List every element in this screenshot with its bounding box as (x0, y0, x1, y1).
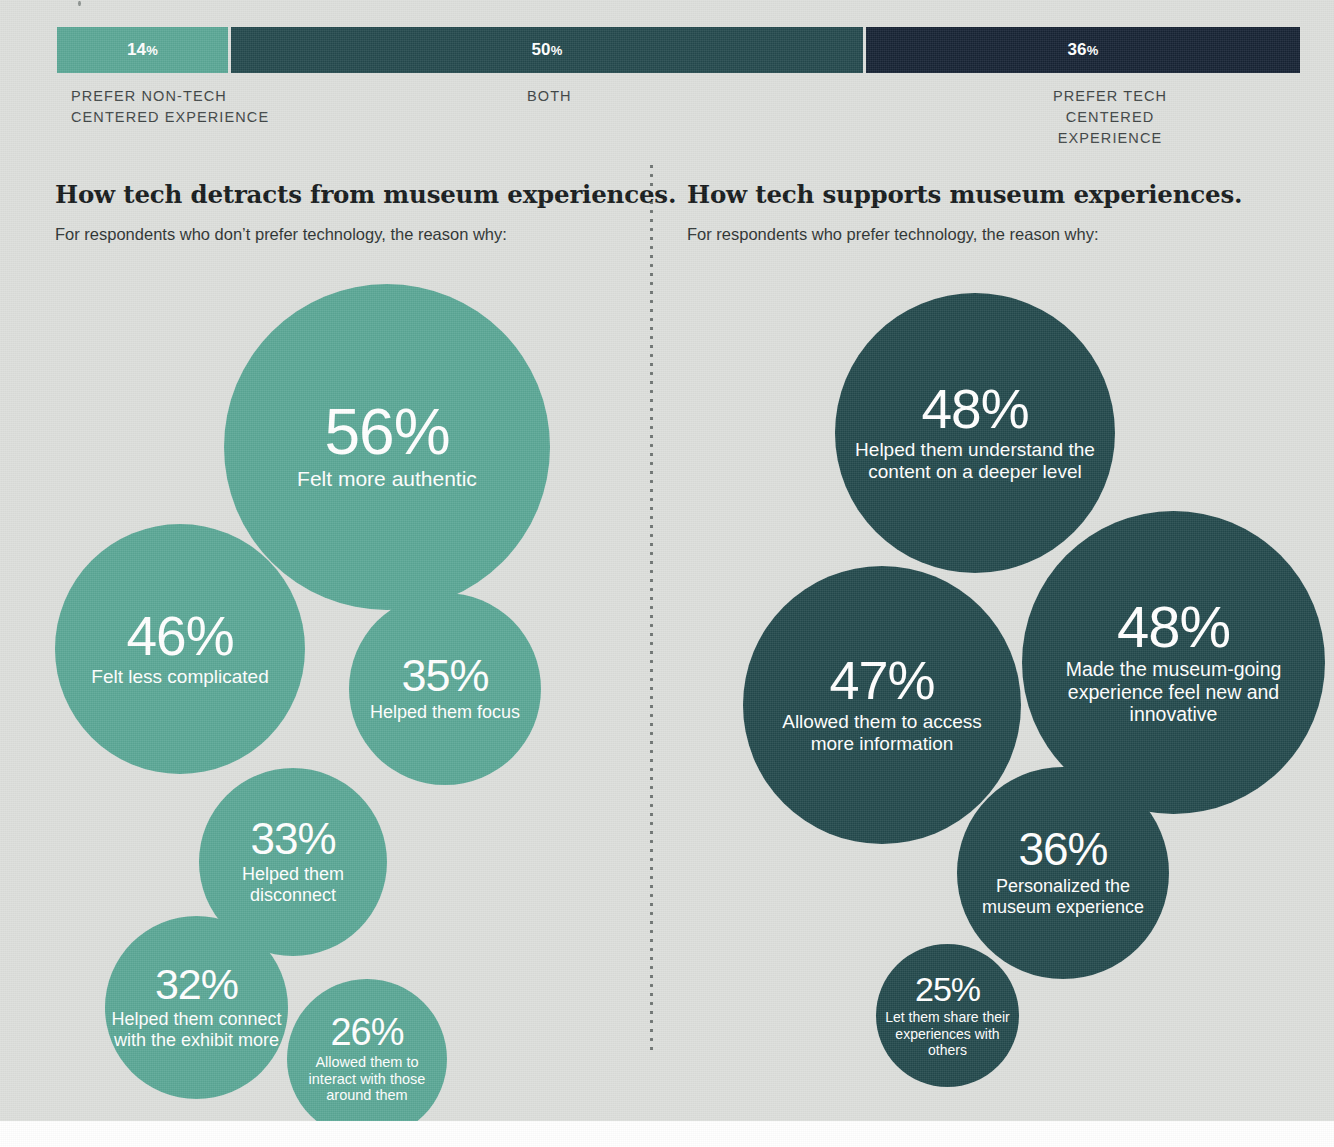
bubble-right-25-label: Let them share their experiences with ot… (873, 1009, 1023, 1058)
right-column-header: How tech supports museum experiences. Fo… (687, 180, 1242, 244)
bubble-right-47: 47% Allowed them to access more informat… (743, 566, 1021, 844)
bubble-left-56-value: 56% (324, 402, 449, 463)
bubble-left-26-value: 26% (330, 1014, 403, 1050)
bubble-right-48b-value: 48% (1117, 599, 1230, 654)
bar-label-non-tech-line2: CENTERED EXPERIENCE (71, 107, 269, 128)
bubble-right-48-deeper-level: 48% Helped them understand the content o… (835, 293, 1115, 573)
bar-label-tech-line2: CENTERED EXPERIENCE (1035, 107, 1185, 149)
bubble-left-33-value: 33% (250, 818, 335, 860)
bubble-left-56-label: Felt more authentic (231, 467, 543, 491)
bubble-left-33-label: Helped them disconnect (201, 864, 385, 906)
bubble-right-36-label: Personalized the museum experience (967, 876, 1159, 918)
bar-label-non-tech-line1: PREFER NON-TECH (71, 86, 269, 107)
bubble-left-46-value: 46% (126, 610, 233, 662)
bar-segment-prefer-non-tech: 14% (57, 27, 231, 73)
bar-label-both-line1: BOTH (527, 86, 572, 107)
bubble-left-46: 46% Felt less complicated (55, 524, 305, 774)
infographic-page: 14% 50% 36% PREFER NON-TECH CENTERED EXP… (0, 0, 1334, 1147)
paper-speck (78, 1, 81, 6)
bubble-right-25-value: 25% (915, 973, 980, 1005)
bubble-left-46-label: Felt less complicated (50, 666, 310, 688)
right-column-title: How tech supports museum experiences. (687, 180, 1242, 209)
bubble-right-48b-label: Made the museum-going experience feel ne… (1035, 658, 1313, 726)
bubble-right-47-label: Allowed them to access more information (756, 711, 1008, 755)
bar-label-prefer-tech: PREFER TECH CENTERED EXPERIENCE (1035, 86, 1185, 149)
page-bottom-margin (0, 1121, 1334, 1147)
bubble-right-25: 25% Let them share their experiences wit… (876, 944, 1019, 1087)
right-column-subtitle: For respondents who prefer technology, t… (687, 225, 1242, 244)
left-column-subtitle: For respondents who don’t prefer technol… (55, 225, 676, 244)
bar-segment-pct-sign-non-tech: % (146, 43, 158, 58)
bubble-left-32-label: Helped them connect with the exhibit mor… (98, 1009, 295, 1051)
preference-stacked-bar: 14% 50% 36% (57, 27, 1300, 73)
bubble-left-32: 32% Helped them connect with the exhibit… (105, 916, 288, 1099)
bubble-left-26: 26% Allowed them to interact with those … (287, 979, 447, 1139)
left-column-title: How tech detracts from museum experience… (55, 180, 676, 209)
column-divider (650, 165, 653, 1055)
bar-label-tech-line1: PREFER TECH (1035, 86, 1185, 107)
bar-segment-prefer-tech: 36% (866, 27, 1300, 73)
bubble-right-36-value: 36% (1018, 828, 1107, 872)
bubble-left-56: 56% Felt more authentic (224, 284, 550, 610)
bar-segment-both: 50% (231, 27, 866, 73)
bubble-left-35-value: 35% (401, 655, 488, 698)
bar-label-prefer-non-tech: PREFER NON-TECH CENTERED EXPERIENCE (71, 86, 269, 128)
left-column-header: How tech detracts from museum experience… (55, 180, 676, 244)
bar-segment-value-tech: 36 (1067, 40, 1086, 60)
bubble-left-32-value: 32% (155, 964, 238, 1005)
bar-label-both: BOTH (527, 86, 572, 107)
bar-segment-pct-sign-both: % (551, 43, 563, 58)
bubble-right-36: 36% Personalized the museum experience (957, 767, 1169, 979)
bar-segment-value-non-tech: 14 (127, 40, 146, 60)
bubble-left-35-label: Helped them focus (359, 702, 531, 723)
bubble-right-48a-label: Helped them understand the content on a … (844, 439, 1106, 483)
bar-segment-value-both: 50 (531, 40, 550, 60)
bubble-left-26-label: Allowed them to interact with those arou… (286, 1054, 448, 1104)
bubble-left-35: 35% Helped them focus (349, 593, 541, 785)
bubble-right-47-value: 47% (829, 655, 934, 706)
bubble-right-48a-value: 48% (921, 383, 1028, 435)
bar-segment-pct-sign-tech: % (1087, 43, 1099, 58)
